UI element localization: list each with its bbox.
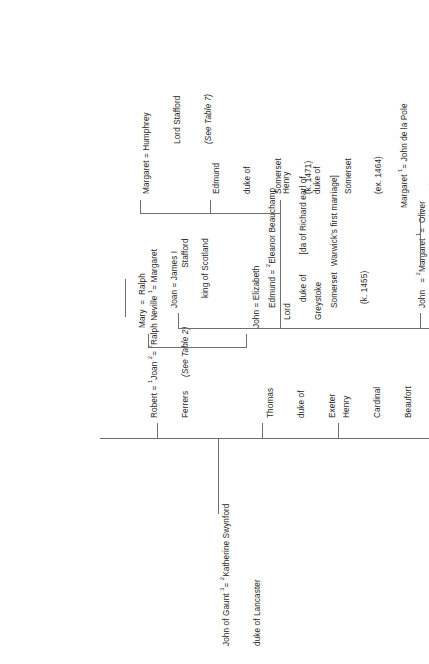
henry-cardinal-line-3: Beaufort	[404, 308, 414, 418]
node-margaret-beaufort-marriages: Margaret 1= John de la Pole 2= Edmund Tu…	[380, 18, 429, 208]
stub-thomas-exeter	[262, 423, 263, 439]
root-node-john-of-gaunt: John of Gaunt 3= 2Katherine Swynford duk…	[202, 456, 284, 646]
margaret-humphrey-line-1: Margaret = Humphrey	[142, 44, 152, 194]
stub-john-duke-somerset	[420, 313, 421, 329]
stub-elizabeth-greystoke	[246, 334, 247, 348]
spine-gen3	[178, 328, 429, 329]
stub-henry-somerset-1464	[280, 200, 281, 214]
edmund-1471-line-4: (k. 1471)	[304, 84, 314, 194]
edmund-1471-line-2: duke of	[243, 84, 253, 194]
mary-ralph-line-1: Mary = Ralph	[138, 218, 148, 328]
margaret-humphrey-line-2: Lord Stafford	[173, 44, 183, 194]
stub-henry-cardinal	[338, 423, 339, 439]
root-line-2: duke of Lancaster	[253, 456, 263, 646]
stub-joan-neville	[157, 423, 158, 439]
connector-john-duke-to-margaret-beaufort	[420, 209, 421, 267]
stub-margaret-humphrey-stafford	[140, 200, 141, 214]
connector-root-to-gen2	[218, 439, 219, 514]
stub-joan-scotland	[178, 313, 179, 329]
henry-1464-line-3: Somerset	[344, 84, 354, 194]
henry-cardinal-line-2: Cardinal	[373, 308, 383, 418]
root-line-1: John of Gaunt 3= 2Katherine Swynford	[222, 456, 232, 646]
margaret-humphrey-line-3: (See Table 7)	[204, 44, 214, 194]
spine-joan-ferrers-children	[148, 347, 246, 348]
stub-mary	[148, 334, 149, 348]
edmund-1471-line-3: Somerset	[274, 84, 284, 194]
node-margaret-humphrey-stafford: Margaret = Humphrey Lord Stafford (See T…	[122, 44, 234, 194]
connector-edmund-to-gen4	[280, 214, 281, 329]
margaret-beaufort-marriage-1: Margaret 1= John de la Pole	[400, 18, 410, 208]
stub-edmund-somerset-1471	[210, 200, 211, 214]
family-tree-diagram: John of Gaunt 3= 2Katherine Swynford duk…	[0, 0, 429, 664]
spine-gen2	[100, 438, 429, 439]
